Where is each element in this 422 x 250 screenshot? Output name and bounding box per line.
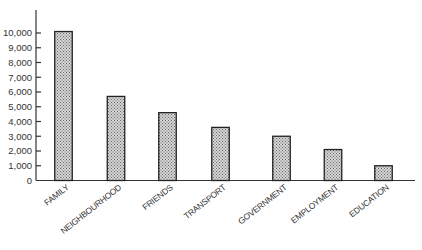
- category-label: GOVERNMENT: [236, 182, 289, 226]
- category-label: EDUCATION: [347, 182, 391, 219]
- y-tick-label: 7,000: [8, 72, 32, 83]
- bar-family: [55, 32, 73, 181]
- bar-chart: 01,0002,0003,0004,0005,0006,0007,0008,00…: [0, 0, 422, 250]
- y-tick-label: 10,000: [3, 27, 32, 38]
- y-tick-label: 3,000: [8, 131, 32, 142]
- y-tick-label: 2,000: [8, 145, 32, 156]
- y-tick-label: 4,000: [8, 116, 32, 127]
- y-tick-label: 8,000: [8, 57, 32, 68]
- category-label: TRANSPORT: [182, 182, 228, 221]
- y-tick-label: 5,000: [8, 101, 32, 112]
- y-tick-label: 9,000: [8, 42, 32, 53]
- bar-government: [273, 136, 291, 180]
- bar-friends: [159, 113, 177, 181]
- bar-neighbourhood: [107, 96, 125, 180]
- y-tick-label: 1,000: [8, 160, 32, 171]
- y-tick-label: 6,000: [8, 86, 32, 97]
- category-label: FAMILY: [42, 182, 71, 208]
- y-tick-label: 0: [27, 175, 32, 186]
- bars: [55, 32, 393, 181]
- category-label: FRIENDS: [140, 182, 175, 212]
- y-axis: 01,0002,0003,0004,0005,0006,0007,0008,00…: [3, 10, 41, 186]
- bar-employment: [324, 150, 342, 181]
- category-labels: FAMILYNEIGHBOURHOODFRIENDSTRANSPORTGOVER…: [42, 182, 391, 236]
- category-label: EMPLOYMENT: [289, 182, 340, 225]
- bar-education: [375, 166, 393, 181]
- bar-transport: [212, 127, 230, 180]
